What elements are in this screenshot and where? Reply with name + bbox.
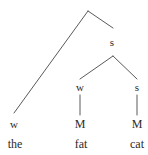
branch-root-to-s-upper xyxy=(88,11,113,28)
node-m-right: M xyxy=(132,118,143,130)
node-s-mid: s xyxy=(135,82,139,93)
node-w-left: w xyxy=(10,119,18,130)
branch-s-upper-to-w-mid xyxy=(80,56,113,79)
node-s-upper: s xyxy=(110,37,114,48)
word-fat: fat xyxy=(75,138,88,150)
word-the: the xyxy=(8,138,23,150)
branch-root-to-w-left xyxy=(14,11,88,113)
node-m-mid: M xyxy=(75,118,86,130)
node-w-mid: w xyxy=(76,82,84,93)
metrical-tree-diagram: s w s w M M the fat cat xyxy=(0,0,148,155)
word-cat: cat xyxy=(130,138,144,150)
tree-branches xyxy=(0,0,148,155)
branch-s-upper-to-s-mid xyxy=(113,56,137,79)
